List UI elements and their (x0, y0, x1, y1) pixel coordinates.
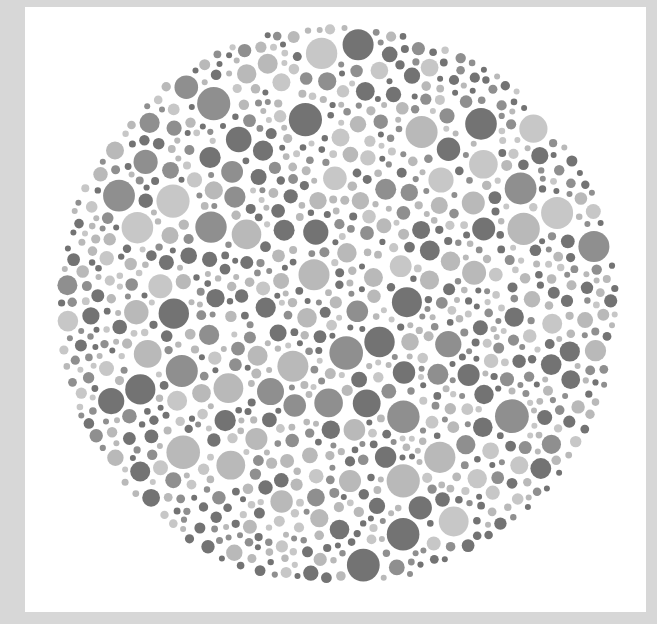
plate-dot-medium-gray (456, 66, 465, 75)
plate-dot-dark-gray (314, 330, 327, 343)
plate-dot-medium-gray (407, 387, 414, 394)
plate-dot-medium-gray (284, 311, 293, 320)
plate-dot-pale-gray (141, 329, 148, 336)
plate-dot-dark-gray (458, 364, 480, 386)
plate-dot-light-gray (388, 510, 394, 516)
plate-dot-pale-gray (82, 297, 90, 305)
plate-dot-medium-gray (165, 472, 181, 488)
plate-dot-dark-gray (291, 328, 299, 336)
plate-dot-light-gray (264, 449, 270, 455)
plate-dot-light-gray (93, 167, 107, 181)
plate-dot-light-gray (338, 102, 344, 108)
plate-dot-medium-gray (550, 397, 556, 403)
plate-dot-medium-gray (450, 377, 456, 383)
plate-dot-light-gray (106, 142, 124, 160)
plate-dot-light-gray (166, 436, 200, 470)
plate-dot-medium-gray (318, 378, 325, 385)
plate-dot-light-gray (301, 331, 309, 339)
plate-dot-dark-gray (129, 141, 136, 148)
plate-dot-pale-gray (362, 210, 376, 224)
plate-dot-pale-gray (501, 328, 507, 334)
plate-dot-light-gray (596, 288, 605, 297)
plate-dot-light-gray (509, 388, 516, 395)
plate-dot-dark-gray (123, 432, 136, 445)
plate-dot-light-gray (431, 197, 448, 214)
plate-dot-dark-gray (367, 474, 374, 481)
plate-dot-dark-gray (497, 246, 505, 254)
plate-dot-medium-gray (147, 450, 157, 460)
plate-dot-light-gray (583, 271, 589, 277)
plate-dot-medium-gray (300, 72, 313, 85)
plate-dot-light-gray (298, 90, 306, 98)
plate-dot-pale-gray (227, 433, 237, 443)
plate-dot-dark-gray (212, 367, 218, 373)
plate-dot-dark-gray (508, 282, 518, 292)
plate-dot-pale-gray (486, 486, 500, 500)
plate-dot-medium-gray (334, 219, 344, 229)
plate-dot-medium-gray (350, 65, 362, 77)
plate-dot-light-gray (223, 524, 229, 530)
plate-dot-light-gray (374, 251, 382, 259)
plate-dot-medium-gray (266, 268, 272, 274)
plate-dot-light-gray (107, 427, 117, 437)
plate-dot-light-gray (96, 274, 102, 280)
plate-dot-medium-gray (488, 85, 497, 94)
plate-dot-light-gray (498, 218, 504, 224)
plate-dot-pale-gray (499, 128, 506, 135)
plate-dot-light-gray (239, 100, 249, 110)
plate-dot-light-gray (566, 312, 574, 320)
plate-dot-medium-gray (250, 468, 261, 479)
plate-dot-pale-gray (541, 197, 573, 229)
plate-dot-pale-gray (586, 204, 601, 219)
plate-dot-pale-gray (484, 354, 498, 368)
plate-dot-medium-gray (144, 103, 150, 109)
plate-dot-light-gray (462, 261, 486, 285)
plate-dot-pale-gray (292, 562, 298, 568)
plate-dot-pale-gray (231, 332, 237, 338)
plate-dot-light-gray (461, 287, 468, 294)
plate-dot-medium-gray (522, 390, 529, 397)
plate-dot-dark-gray (491, 373, 498, 380)
plate-dot-dark-gray (149, 416, 158, 425)
plate-dot-dark-gray (158, 405, 164, 411)
plate-dot-medium-gray (269, 162, 281, 174)
plate-dot-pale-gray (276, 424, 285, 433)
plate-dot-medium-gray (231, 342, 245, 356)
plate-dot-light-gray (175, 341, 181, 347)
plate-dot-dark-gray (531, 147, 548, 164)
plate-dot-pale-gray (527, 432, 533, 438)
plate-dot-light-gray (340, 196, 349, 205)
plate-dot-dark-gray (349, 213, 357, 221)
plate-dot-dark-gray (322, 135, 328, 141)
plate-dot-medium-gray (78, 413, 84, 419)
plate-dot-medium-gray (197, 87, 230, 120)
plate-dot-light-gray (275, 345, 281, 351)
plate-dot-pale-gray (293, 150, 300, 157)
plate-dot-pale-gray (476, 406, 482, 412)
plate-dot-light-gray (258, 54, 278, 74)
plate-dot-pale-gray (427, 537, 441, 551)
plate-dot-medium-gray (159, 107, 165, 113)
plate-dot-medium-gray (272, 572, 278, 578)
plate-dot-dark-gray (206, 289, 224, 307)
plate-dot-light-gray (366, 363, 372, 369)
plate-dot-dark-gray (200, 124, 206, 130)
plate-dot-medium-gray (247, 321, 254, 328)
plate-dot-light-gray (281, 555, 288, 562)
plate-dot-light-gray (277, 351, 308, 382)
plate-dot-light-gray (344, 419, 366, 441)
plate-dot-medium-gray (103, 180, 135, 212)
plate-dot-pale-gray (99, 361, 114, 376)
plate-dot-medium-gray (508, 335, 519, 346)
plate-dot-dark-gray (435, 226, 443, 234)
plate-dot-medium-gray (257, 378, 284, 405)
plate-dot-light-gray (129, 172, 135, 178)
plate-dot-pale-gray (274, 110, 286, 122)
plate-dot-dark-gray (130, 455, 136, 461)
plate-dot-medium-gray (90, 429, 103, 442)
plate-dot-light-gray (396, 102, 409, 115)
plate-dot-medium-gray (195, 422, 201, 428)
plate-dot-medium-gray (499, 113, 505, 119)
plate-dot-light-gray (488, 507, 497, 516)
plate-dot-light-gray (416, 327, 423, 334)
